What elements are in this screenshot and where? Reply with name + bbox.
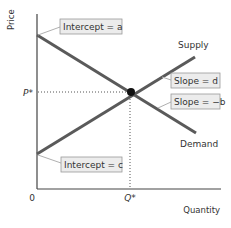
slope-b-label: Slope = −b (174, 97, 226, 107)
intercept-c-callout: Intercept = c (61, 157, 123, 172)
p-star-label: P* (23, 88, 33, 98)
slope-b-leader (158, 102, 171, 108)
intercept-a-label: Intercept = a (63, 22, 122, 32)
q-star-label: Q* (124, 193, 136, 203)
supply-label: Supply (178, 40, 209, 50)
slope-b-callout: Slope = −b (171, 94, 226, 109)
equilibrium-point (127, 88, 135, 96)
origin-label: 0 (29, 193, 35, 203)
demand-label: Demand (180, 139, 218, 149)
intercept-a-leader (38, 27, 60, 35)
y-axis-label: Price (6, 9, 16, 30)
slope-d-label: Slope = d (174, 76, 218, 86)
intercept-a-callout: Intercept = a (60, 19, 122, 34)
intercept-c-label: Intercept = c (64, 160, 123, 170)
intercept-c-leader (38, 155, 61, 163)
slope-d-callout: Slope = d (171, 73, 220, 88)
supply-demand-diagram: Intercept = a Intercept = c Slope = d Sl… (0, 0, 231, 228)
x-axis-label: Quantity (183, 205, 220, 215)
slope-d-leader (162, 77, 171, 80)
